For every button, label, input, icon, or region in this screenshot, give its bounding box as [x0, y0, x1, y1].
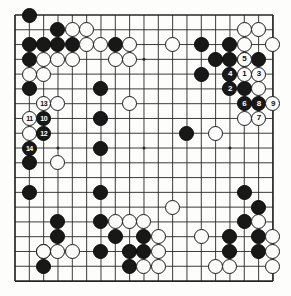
black-stone	[36, 259, 51, 274]
move-number-label: 10	[40, 115, 47, 122]
move-number-label: 6	[242, 99, 246, 107]
move-number-label: 5	[242, 55, 246, 63]
white-stone	[122, 52, 137, 67]
move-stone-3: 3	[251, 67, 266, 82]
white-stone	[151, 244, 166, 259]
black-stone	[122, 244, 137, 259]
move-number-label: 8	[257, 99, 261, 107]
black-stone	[65, 37, 80, 52]
move-number-label: 1	[242, 70, 246, 78]
black-stone	[237, 185, 252, 200]
move-stone-11: 11	[22, 111, 37, 126]
black-stone	[22, 52, 37, 67]
move-number-label: 13	[40, 100, 47, 107]
white-stone	[237, 22, 252, 37]
black-stone	[251, 244, 266, 259]
white-stone	[65, 22, 80, 37]
move-number-label: 11	[26, 115, 32, 122]
white-stone	[208, 259, 223, 274]
white-stone	[22, 126, 37, 141]
white-stone	[151, 229, 166, 244]
white-stone	[237, 37, 252, 52]
black-stone	[122, 259, 137, 274]
move-number-label: 2	[228, 85, 232, 93]
move-stone-6: 6	[237, 96, 252, 111]
white-stone	[237, 111, 252, 126]
move-number-label: 3	[257, 70, 261, 78]
white-stone	[36, 52, 51, 67]
move-number-label: 7	[257, 114, 261, 122]
go-board-diagram: 1234567891011121314	[0, 0, 291, 296]
move-stone-14: 14	[22, 141, 37, 156]
white-stone	[208, 126, 223, 141]
black-stone	[251, 52, 266, 67]
white-stone	[151, 259, 166, 274]
move-number-label: 4	[228, 70, 232, 78]
star-point	[142, 147, 145, 150]
black-stone	[108, 37, 123, 52]
move-number-label: 12	[40, 129, 47, 136]
move-stone-1: 1	[237, 67, 252, 82]
move-stone-12: 12	[36, 126, 51, 141]
move-number-label: 14	[26, 144, 33, 151]
white-stone	[65, 52, 80, 67]
move-stone-5: 5	[237, 52, 252, 67]
white-stone	[165, 200, 180, 215]
white-stone	[194, 229, 209, 244]
star-point	[56, 147, 59, 150]
star-point	[142, 58, 145, 61]
black-stone	[208, 52, 223, 67]
black-stone	[194, 67, 209, 82]
move-number-label: 9	[271, 99, 275, 107]
black-stone	[108, 229, 123, 244]
white-stone	[108, 52, 123, 67]
black-stone	[93, 141, 108, 156]
move-stone-4: 4	[222, 67, 237, 82]
white-stone	[65, 244, 80, 259]
white-stone	[22, 67, 37, 82]
black-stone	[22, 8, 37, 23]
move-stone-7: 7	[251, 111, 266, 126]
star-point	[228, 147, 231, 150]
white-stone	[36, 67, 51, 82]
black-stone	[251, 200, 266, 215]
black-stone	[22, 37, 37, 52]
black-stone	[22, 185, 37, 200]
black-stone	[194, 37, 209, 52]
